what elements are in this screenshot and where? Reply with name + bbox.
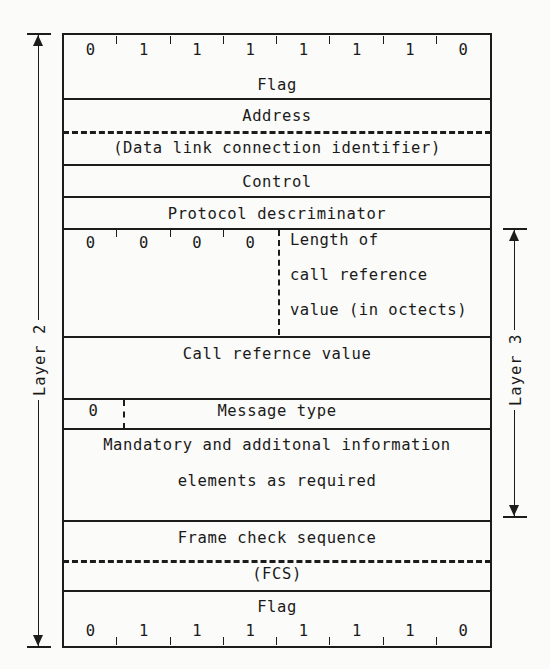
bit-cell: 1 [330, 37, 383, 63]
top-flag-bit-row: 0 1 1 1 1 1 1 0 [64, 37, 490, 63]
bit-cell: 0 [437, 618, 490, 644]
bit-cell: 1 [117, 618, 170, 644]
layer-2-bracket-bottom-cap [27, 646, 51, 648]
bit-cell: 1 [384, 618, 437, 644]
row-divider-fcs-flagbottom [64, 590, 490, 592]
bit-cell: 0 [171, 230, 224, 256]
nibble-bit-row: 0 0 0 0 [64, 230, 277, 256]
bit-cell: 1 [171, 37, 224, 63]
row-divider-callref-messagetype [64, 398, 490, 400]
information-elements-line-2: elements as required [64, 472, 490, 490]
layer-3-label-text: Layer 3 [507, 330, 525, 410]
row-label-dlci: (Data link connection identifier) [64, 139, 490, 157]
bit-cell: 1 [224, 618, 277, 644]
row-label-fcs-abbrev: (FCS) [64, 565, 490, 583]
bit-cell: 1 [171, 618, 224, 644]
call-reference-length-line-2: call reference [290, 266, 428, 284]
bit-cell: 0 [224, 230, 277, 256]
bottom-flag-bit-row: 0 1 1 1 1 1 1 0 [64, 618, 490, 644]
frame-structure-table: 0 1 1 1 1 1 1 0 Flag Address (Data link … [62, 33, 492, 648]
layer-3-label: Layer 3 [507, 330, 525, 410]
call-reference-length-vertical-divider [278, 230, 280, 335]
row-divider-fcs-dashed [63, 560, 491, 563]
bit-cell: 1 [384, 37, 437, 63]
row-divider-flag-address [64, 98, 490, 100]
bit-cell: 1 [117, 37, 170, 63]
row-divider-infoelements-fcs [64, 520, 490, 522]
row-label-message-type: Message type [64, 402, 490, 420]
row-label-call-reference-value: Call refernce value [64, 345, 490, 363]
bit-cell: 0 [64, 230, 117, 256]
row-label-control: Control [64, 173, 490, 191]
bit-cell: 1 [330, 618, 383, 644]
row-label-protocol-discriminator: Protocol descriminator [64, 205, 490, 223]
layer-2-label: Layer 2 [31, 320, 49, 400]
bit-cell: 0 [64, 37, 117, 63]
bit-cell: 0 [437, 37, 490, 63]
layer-3-bracket-bottom-cap [503, 516, 527, 518]
row-label-flag-bottom: Flag [64, 598, 490, 616]
call-reference-length-line-1: Length of [290, 231, 379, 249]
row-label-frame-check-sequence: Frame check sequence [64, 529, 490, 547]
row-divider-dlci-control [64, 164, 490, 166]
row-label-address: Address [64, 107, 490, 125]
layer-2-arrowhead-down-icon [33, 635, 43, 646]
bit-cell: 0 [117, 230, 170, 256]
information-elements-line-1: Mandatory and additonal information [64, 436, 490, 454]
row-divider-messagetype-infoelements [64, 428, 490, 430]
layer-3-arrowhead-down-icon [509, 505, 519, 516]
bit-cell: 1 [224, 37, 277, 63]
bit-cell: 1 [277, 37, 330, 63]
layer-2-label-text: Layer 2 [31, 320, 49, 400]
bit-cell: 1 [277, 618, 330, 644]
row-divider-control-protocol [64, 196, 490, 198]
bit-cell: 0 [64, 618, 117, 644]
row-label-flag-top: Flag [64, 76, 490, 94]
row-divider-address-dlci-dashed [63, 131, 491, 134]
call-reference-length-line-3: value (in octects) [290, 301, 467, 319]
row-divider-length-callref [64, 336, 490, 338]
